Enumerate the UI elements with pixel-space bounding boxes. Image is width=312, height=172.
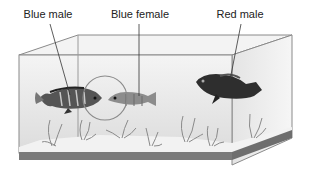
aquarium-diagram <box>0 0 312 172</box>
